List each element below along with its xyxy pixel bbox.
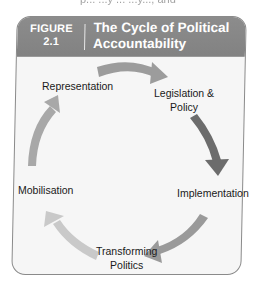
node-label: Legislation &: [154, 86, 214, 100]
node-label: Mobilisation: [18, 183, 73, 197]
node-label: Policy: [154, 100, 214, 114]
arrow-mobilisation-to-representation: [28, 95, 60, 166]
node-transforming-politics: Transforming Politics: [96, 244, 157, 272]
arrow-legislation-to-implementation: [190, 114, 229, 176]
node-label: Politics: [96, 258, 157, 272]
node-label: Transforming: [96, 244, 157, 258]
node-representation: Representation: [42, 79, 113, 93]
node-legislation-policy: Legislation & Policy: [154, 86, 214, 114]
node-label: Representation: [42, 79, 113, 93]
node-mobilisation: Mobilisation: [18, 183, 73, 197]
arrow-transforming-to-mobilisation: [44, 211, 99, 260]
node-implementation: Implementation: [177, 186, 249, 200]
node-label: Implementation: [177, 186, 249, 200]
